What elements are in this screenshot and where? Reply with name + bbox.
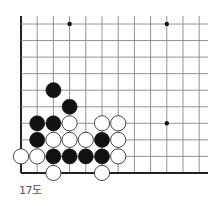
- black-stone-icon: [94, 132, 109, 147]
- white-stone-icon: [46, 132, 61, 147]
- black-stone-icon: [78, 149, 93, 164]
- white-stone-icon: [111, 116, 126, 131]
- black-stone-icon: [94, 149, 109, 164]
- star-point-icon: [67, 22, 71, 26]
- black-stone-icon: [46, 83, 61, 98]
- white-stone-icon: [78, 132, 93, 147]
- white-stone-icon: [62, 116, 77, 131]
- black-stone-icon: [46, 116, 61, 131]
- black-stone-icon: [62, 149, 77, 164]
- diagram-caption: 17도: [19, 181, 42, 197]
- white-stone-icon: [62, 132, 77, 147]
- white-stone-icon: [46, 165, 61, 180]
- star-point-icon: [165, 22, 169, 26]
- black-stone-icon: [30, 116, 45, 131]
- white-stone-icon: [13, 149, 28, 164]
- black-stone-icon: [46, 149, 61, 164]
- black-stone-icon: [30, 132, 45, 147]
- star-point-icon: [165, 121, 169, 125]
- white-stone-icon: [111, 132, 126, 147]
- black-stone-icon: [62, 99, 77, 114]
- white-stone-icon: [94, 116, 109, 131]
- white-stone-icon: [30, 149, 45, 164]
- white-stone-icon: [94, 165, 109, 180]
- white-stone-icon: [111, 149, 126, 164]
- go-board: [0, 0, 221, 208]
